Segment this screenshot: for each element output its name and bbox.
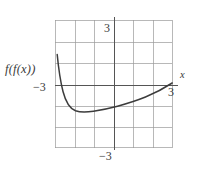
chart-screenshot: f(f(x)) 3 −3 −3 3 x xyxy=(0,0,209,174)
x-axis-label: x xyxy=(180,70,185,81)
curve-f-of-f-of-x xyxy=(57,55,172,113)
x-axis-tick-label-right: 3 xyxy=(168,86,174,98)
y-axis-tick-label-top: 3 xyxy=(104,22,110,34)
y-axis-tick-label-bottom: −3 xyxy=(99,150,112,162)
curve-label: f(f(x)) xyxy=(5,63,36,76)
x-axis-tick-label-left: −3 xyxy=(33,81,46,93)
